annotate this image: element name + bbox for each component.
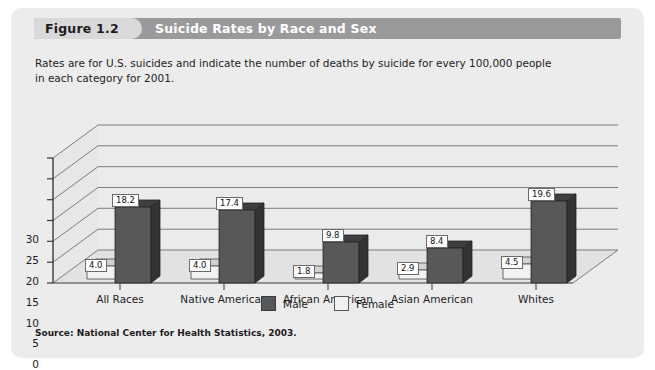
legend-label-female: Female (356, 298, 394, 310)
y-tick-0: 0 (17, 358, 39, 370)
figure-source: Source: National Center for Health Stati… (35, 328, 297, 338)
figure-number-label: Figure 1.2 (45, 21, 119, 36)
figure-subtitle: Rates are for U.S. suicides and indicate… (35, 56, 555, 86)
legend-label-male: Male (283, 298, 308, 310)
figure-card: Figure 1.2 Suicide Rates by Race and Sex… (11, 8, 644, 358)
chart-legend: Male Female (11, 296, 644, 311)
legend-swatch-female-icon (334, 296, 349, 311)
y-tick-5: 5 (17, 337, 39, 349)
x-axis-label-layer: All Races Native American African Americ… (23, 103, 633, 303)
figure-header-bar: Figure 1.2 Suicide Rates by Race and Sex (34, 18, 621, 39)
figure-title: Suicide Rates by Race and Sex (155, 21, 377, 36)
figure-number-tab: Figure 1.2 (34, 18, 142, 39)
legend-swatch-male-icon (261, 296, 276, 311)
legend-item-male: Male (261, 296, 308, 311)
legend-item-female: Female (334, 296, 394, 311)
